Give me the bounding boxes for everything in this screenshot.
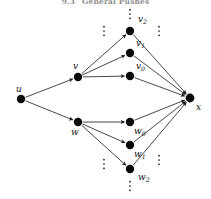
ellipsis-dot — [103, 30, 105, 32]
ellipsis-dot — [158, 163, 160, 165]
node-w0 — [126, 118, 134, 126]
graph-figure: uvwv2v1v0w0w1w2x — [0, 0, 211, 199]
edge-w0-to-x — [134, 100, 184, 120]
node-label-w0: w0 — [134, 126, 146, 137]
edge-u-to-v — [25, 79, 72, 97]
ellipsis-dot — [103, 34, 105, 36]
node-label-w2: w2 — [138, 172, 150, 183]
edge-v1-to-x — [134, 56, 186, 95]
node-v2 — [126, 27, 134, 35]
ellipsis-dot — [103, 159, 105, 161]
node-label-v2: v2 — [138, 14, 147, 25]
node-v0 — [126, 72, 134, 80]
ell-bot-left — [103, 159, 105, 169]
ellipsis-dot — [158, 155, 160, 157]
node-label-subscript-v1: 1 — [141, 42, 145, 49]
labels-layer: uvwv2v1v0w0w1w2x — [16, 14, 201, 183]
edge-v0-to-x — [135, 78, 185, 96]
node-v — [74, 73, 82, 81]
edge-w-to-w1 — [82, 124, 125, 143]
ellipsis-dot — [103, 163, 105, 165]
edge-u-to-w — [25, 101, 73, 120]
ellipsis-dot — [158, 34, 160, 36]
edge-v-to-v2 — [82, 35, 126, 74]
ellipsis-dot — [129, 181, 131, 183]
node-label-u: u — [16, 84, 22, 94]
node-w — [74, 118, 82, 126]
node-v1 — [126, 49, 134, 57]
ell-top-left — [103, 26, 105, 36]
ell-bot-right — [158, 155, 160, 165]
node-x — [186, 94, 195, 103]
node-label-v1: v1 — [136, 38, 145, 49]
node-w1 — [126, 141, 134, 149]
ell-top-right — [158, 26, 160, 36]
figure-root: 9.3General Pushes uvwv2v1v0w0w1w2x — [0, 0, 211, 199]
edge-v-to-v1 — [82, 55, 125, 75]
ell-top-center — [129, 9, 131, 19]
node-label-subscript-w2: 2 — [145, 176, 150, 183]
ell-bot-center — [129, 181, 131, 191]
node-u — [17, 95, 25, 103]
ellipsis-dot — [129, 9, 131, 11]
node-label-subscript-w1: 1 — [142, 153, 146, 160]
node-label-w1: w1 — [134, 149, 146, 160]
node-w2 — [126, 165, 134, 173]
ellipsis-dot — [158, 26, 160, 28]
ellipsis-dot — [103, 26, 105, 28]
ellipsis-dot — [129, 13, 131, 15]
ellipsis-dot — [158, 30, 160, 32]
node-label-w: w — [71, 127, 79, 137]
node-label-x: x — [196, 102, 201, 112]
ellipses-layer — [103, 9, 160, 191]
node-label-subscript-v0: 0 — [141, 65, 145, 72]
nodes-layer — [17, 27, 195, 173]
ellipsis-dot — [129, 185, 131, 187]
node-label-v: v — [73, 61, 78, 71]
node-label-subscript-w0: 0 — [142, 130, 146, 137]
edges-layer — [25, 35, 186, 166]
ellipsis-dot — [129, 17, 131, 19]
ellipsis-dot — [129, 189, 131, 191]
ellipsis-dot — [158, 159, 160, 161]
node-label-subscript-v2: 2 — [142, 18, 147, 25]
node-label-v0: v0 — [136, 61, 145, 72]
ellipsis-dot — [103, 167, 105, 169]
edge-v-to-v0 — [83, 76, 125, 77]
